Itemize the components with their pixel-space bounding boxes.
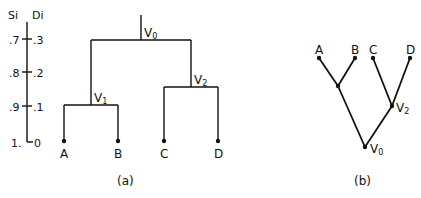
leaf-a-label: A — [60, 147, 69, 161]
di-header: Di — [32, 9, 44, 22]
di-tick-label: .2 — [33, 67, 44, 80]
v2-label: V2 — [194, 73, 207, 88]
leaf-a-node — [62, 139, 66, 143]
caption-a: (a) — [117, 174, 134, 188]
leaf-d-node — [216, 139, 220, 143]
v0-node — [363, 145, 367, 149]
leaf-c-label: C — [160, 147, 168, 161]
leaf-a-label: A — [315, 43, 324, 57]
v1-label: V1 — [94, 91, 107, 106]
leaf-b-label: B — [351, 43, 359, 57]
si-tick-label: 1. — [11, 137, 22, 150]
leaf-b-label: B — [114, 147, 122, 161]
v2-node — [390, 104, 394, 108]
di-tick-label: .1 — [33, 101, 44, 114]
edge-v2-v0 — [365, 106, 392, 147]
v0-label: V0 — [144, 26, 157, 41]
leaf-d-label: D — [406, 43, 415, 57]
edge-d — [392, 58, 410, 106]
edge-a — [319, 58, 338, 86]
edge-c — [373, 58, 392, 106]
edge-ab-v0 — [338, 86, 365, 147]
leaf-d-label: D — [214, 147, 223, 161]
dendrogram-a: V0 V1 V2 A B C D (a) — [60, 15, 223, 188]
leaf-c-label: C — [369, 43, 377, 57]
si-tick-label: .9 — [9, 101, 20, 114]
caption-b: (b) — [354, 174, 371, 188]
ab-internal-node — [336, 84, 340, 88]
v2-label: V2 — [396, 101, 409, 116]
si-tick-label: .7 — [9, 34, 20, 47]
di-tick-label: 0 — [34, 137, 41, 150]
v0-label: V0 — [370, 142, 383, 157]
leaf-b-node — [116, 139, 120, 143]
tree-b: A B C D V2 V0 (b) — [315, 43, 415, 188]
edge-b — [338, 58, 355, 86]
leaf-c-node — [162, 139, 166, 143]
similarity-distance-axis: Si Di .7 .3 .8 .2 .9 .1 1. 0 — [8, 9, 44, 150]
si-header: Si — [8, 9, 18, 22]
si-tick-label: .8 — [9, 67, 20, 80]
dendrogram-figure: Si Di .7 .3 .8 .2 .9 .1 1. 0 — [0, 0, 421, 198]
di-tick-label: .3 — [33, 34, 44, 47]
